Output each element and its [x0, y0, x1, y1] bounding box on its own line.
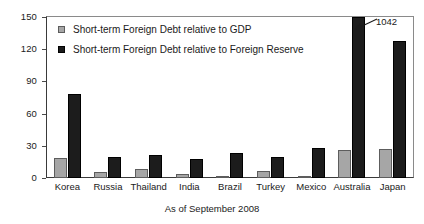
bar-turkey-reserve: [271, 157, 284, 178]
bar-korea-gdp: [54, 158, 67, 178]
bar-mexico-gdp: [298, 176, 311, 178]
y-tick-label: 0: [32, 173, 37, 183]
y-tick-label: 120: [21, 44, 37, 54]
x-axis-label-india: India: [169, 181, 210, 193]
bar-australia-reserve: [352, 17, 365, 178]
x-axis-label-australia: Australia: [332, 181, 373, 193]
x-axis-label-thailand: Thailand: [128, 181, 169, 193]
x-axis-label-japan: Japan: [372, 181, 413, 193]
bar-thailand-reserve: [149, 155, 162, 178]
bar-brazil-reserve: [230, 153, 243, 178]
bar-russia-gdp: [94, 172, 107, 178]
y-tick-mark: [42, 178, 46, 179]
x-axis-caption: As of September 2008: [0, 203, 424, 215]
x-axis-label-turkey: Turkey: [250, 181, 291, 193]
x-axis-label-russia: Russia: [88, 181, 129, 193]
y-tick-label: 150: [21, 12, 37, 22]
x-axis-label-brazil: Brazil: [210, 181, 251, 193]
x-axis-labels: KoreaRussiaThailandIndiaBrazilTurkeyMexi…: [47, 181, 413, 197]
legend-swatch-reserve-icon: [58, 46, 65, 53]
bar-mexico-reserve: [312, 148, 325, 178]
bar-india-gdp: [176, 174, 189, 178]
legend-label-reserve: Short-term Foreign Debt relative to Fore…: [73, 44, 304, 55]
bar-japan-reserve: [393, 41, 406, 178]
bar-chart: 0306090120150 Short-term Foreign Debt re…: [0, 0, 424, 224]
y-tick-label: 30: [26, 141, 37, 151]
legend-item-gdp: Short-term Foreign Debt relative to GDP: [58, 20, 338, 38]
y-axis: 0306090120150: [0, 10, 46, 186]
bar-korea-reserve: [68, 94, 81, 178]
x-axis-label-korea: Korea: [47, 181, 88, 193]
x-axis-label-mexico: Mexico: [291, 181, 332, 193]
bar-group: [372, 17, 413, 178]
bar-india-reserve: [190, 159, 203, 178]
bar-thailand-gdp: [135, 169, 148, 178]
bar-australia-gdp: [338, 150, 351, 178]
annotation-value-1042: 1042: [376, 16, 397, 27]
y-tick-label: 90: [26, 76, 37, 86]
bar-turkey-gdp: [257, 171, 270, 179]
bar-russia-reserve: [108, 157, 121, 178]
y-tick-label: 60: [26, 109, 37, 119]
legend-swatch-gdp-icon: [58, 26, 65, 33]
bar-brazil-gdp: [216, 176, 229, 178]
bar-japan-gdp: [379, 149, 392, 178]
legend-label-gdp: Short-term Foreign Debt relative to GDP: [73, 24, 251, 35]
chart-legend: Short-term Foreign Debt relative to GDP …: [58, 20, 338, 60]
legend-item-reserve: Short-term Foreign Debt relative to Fore…: [58, 40, 338, 58]
